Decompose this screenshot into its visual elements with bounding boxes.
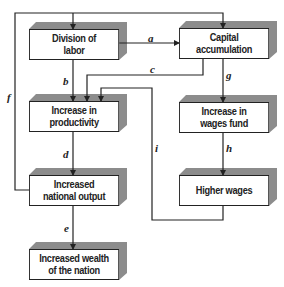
edge-label-i: i bbox=[155, 143, 158, 154]
box-increase-in-productivity: Increase in productivity bbox=[29, 101, 119, 132]
edge-label-h: h bbox=[226, 143, 232, 154]
box-increased-wealth-of-the-nation: Increased wealth of the nation bbox=[29, 249, 119, 280]
edge-label-f: f bbox=[7, 92, 11, 103]
edge-label-c: c bbox=[150, 64, 155, 75]
classical-growth-flow-diagram: Division of labor Capital accumulation I… bbox=[0, 0, 284, 287]
box-label: Increased national output bbox=[43, 179, 105, 203]
edge-label-d: d bbox=[63, 149, 69, 160]
box-increased-national-output: Increased national output bbox=[29, 175, 119, 206]
edge-label-a: a bbox=[148, 33, 154, 44]
box-division-of-labor: Division of labor bbox=[29, 29, 119, 60]
box-label: Capital accumulation bbox=[196, 32, 252, 56]
edge-label-e: e bbox=[64, 223, 69, 234]
box-label: Higher wages bbox=[196, 185, 253, 197]
box-label: Increased wealth of the nation bbox=[39, 253, 109, 277]
box-label: Increase in wages fund bbox=[200, 106, 248, 130]
box-higher-wages: Higher wages bbox=[179, 175, 269, 206]
edge-label-g: g bbox=[226, 70, 232, 81]
box-increase-in-wages-fund: Increase in wages fund bbox=[179, 102, 269, 133]
box-label: Division of labor bbox=[52, 33, 96, 57]
edge-label-b: b bbox=[63, 76, 69, 87]
box-label: Increase in productivity bbox=[49, 105, 98, 129]
box-capital-accumulation: Capital accumulation bbox=[179, 28, 269, 59]
